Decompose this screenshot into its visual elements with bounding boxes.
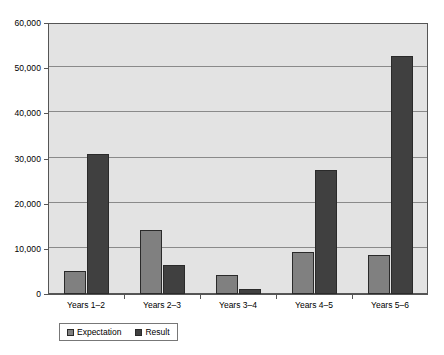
y-tick-label-50000: 50,000 (14, 63, 41, 73)
bar-expectation-1 (64, 271, 86, 294)
y-tick-mark-40000 (44, 113, 48, 114)
legend-item-result: Result (135, 327, 169, 337)
chart-legend: Expectation Result (59, 323, 178, 341)
x-tick-label-3: Years 4–5 (276, 300, 352, 310)
x-tick-mark-4 (352, 294, 353, 299)
x-axis-line (48, 294, 428, 295)
x-tick-label-2: Years 3–4 (200, 300, 276, 310)
x-tick-label-1: Years 2–3 (124, 300, 200, 310)
legend-swatch-expectation-icon (67, 329, 74, 336)
legend-label-expectation: Expectation (77, 327, 121, 337)
y-tick-mark-60000 (44, 23, 48, 24)
x-tick-mark-2 (200, 294, 201, 299)
y-tick-mark-30000 (44, 159, 48, 160)
y-tick-mark-20000 (44, 204, 48, 205)
y-tick-label-40000: 40,000 (14, 108, 41, 118)
y-tick-label-30000: 30,000 (14, 154, 41, 164)
x-tick-label-0: Years 1–2 (48, 300, 124, 310)
y-tick-label-10000: 10,000 (14, 244, 41, 254)
y-tick-mark-50000 (44, 68, 48, 69)
bar-result-2 (163, 265, 185, 294)
legend-item-expectation: Expectation (67, 327, 121, 337)
bar-group (352, 23, 428, 294)
x-tick-mark-3 (276, 294, 277, 299)
bar-group (276, 23, 352, 294)
bar-chart: 0 10,000 20,000 30,000 40,000 50,000 60,… (0, 0, 444, 355)
y-tick-label-0: 0 (36, 289, 41, 299)
bar-expectation-4 (292, 252, 314, 294)
bar-expectation-2 (140, 230, 162, 294)
legend-swatch-result-icon (135, 329, 142, 336)
y-tick-label-60000: 60,000 (14, 18, 41, 28)
x-tick-label-4: Years 5–6 (352, 300, 428, 310)
bar-group (200, 23, 276, 294)
bars-layer (48, 23, 428, 294)
bar-result-1 (87, 154, 109, 294)
bar-group (48, 23, 124, 294)
y-tick-mark-10000 (44, 249, 48, 250)
x-tick-mark-1 (124, 294, 125, 299)
bar-result-5 (391, 56, 413, 294)
y-tick-label-20000: 20,000 (14, 199, 41, 209)
legend-label-result: Result (145, 327, 169, 337)
bar-result-4 (315, 170, 337, 294)
y-tick-mark-0 (44, 294, 48, 295)
bar-group (124, 23, 200, 294)
bar-expectation-5 (368, 255, 390, 294)
bar-expectation-3 (216, 275, 238, 294)
